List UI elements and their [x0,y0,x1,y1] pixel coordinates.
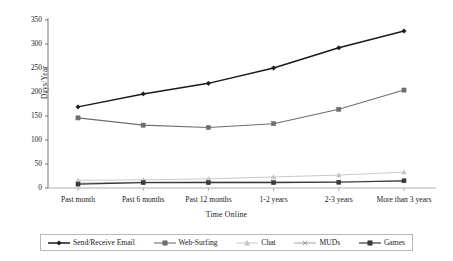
square-marker [154,238,176,247]
triangle-marker [236,238,258,247]
legend-entry: Web-Surfing [154,238,218,247]
y-tick-label: 150 [16,112,42,120]
y-tick-label: 350 [16,16,42,24]
series-send-receive-email [76,29,406,109]
chart-legend: Send/Receive EmailWeb-SurfingChatMUDsGam… [40,234,413,251]
legend-label: Chat [260,238,275,247]
legend-entry: Games [359,238,405,247]
series-chat [76,170,406,182]
y-tick-label: 0 [16,184,42,192]
x-tick-label: More than 3 years [354,195,453,204]
x-axis-title: Time Online [0,210,453,219]
series-lines [76,29,406,186]
legend-label: Send/Receive Email [72,238,135,247]
legend-entry: MUDs [294,238,340,247]
y-tick-label: 250 [16,64,42,72]
y-tick-label: 50 [16,160,42,168]
plot-canvas [0,0,453,261]
y-tick-label: 100 [16,136,42,144]
legend-entry: Send/Receive Email [48,238,135,247]
square-marker [359,238,381,247]
legend-label: Web-Surfing [178,238,218,247]
legend-label: MUDs [318,238,340,247]
y-tick-label: 300 [16,40,42,48]
legend-label: Games [383,238,405,247]
diamond-marker [48,238,70,247]
legend-entry: Chat [236,238,275,247]
x-marker [294,238,316,247]
y-tick-label: 200 [16,88,42,96]
line-chart: Days/Year 350300250200150100500 Past mon… [0,0,453,261]
series-web-surfing [76,88,406,130]
axis-lines [45,18,436,191]
